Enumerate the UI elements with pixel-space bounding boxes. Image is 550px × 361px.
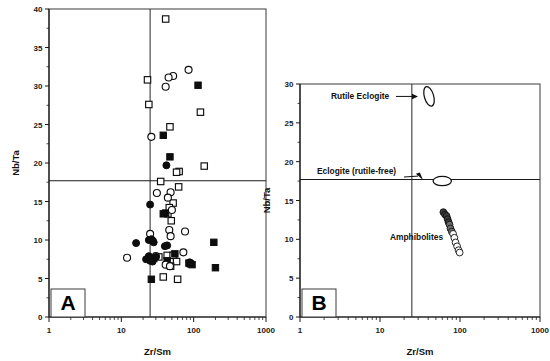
data-point-filled-circle [147, 201, 154, 208]
y-tick-label: 20 [285, 158, 294, 167]
data-point-filled-square [167, 154, 173, 160]
figure-container: 05101520253035401101001000Zr/SmNb/TaA051… [0, 0, 550, 361]
y-tick-label: 10 [34, 236, 43, 245]
data-point-open-square [157, 178, 163, 184]
data-point-amphibolite [456, 249, 463, 256]
data-point-open-square [160, 274, 166, 280]
x-tick-label: 1 [298, 326, 303, 335]
x-tick-label: 10 [117, 326, 126, 335]
y-axis-title-A: Nb/Ta [10, 149, 21, 175]
data-point-open-square [146, 101, 152, 107]
data-point-open-circle [165, 74, 172, 81]
data-point-open-square [173, 169, 179, 175]
panel-letter-B: B [311, 291, 326, 314]
y-tick-label: 40 [34, 5, 43, 14]
data-point-open-square [168, 218, 174, 224]
x-tick-label: 100 [187, 326, 201, 335]
y-axis-title-B: Nb/Ta [261, 187, 272, 213]
data-point-open-circle [164, 194, 171, 201]
data-point-filled-circle [133, 240, 140, 247]
y-tick-label: 5 [289, 274, 294, 283]
y-tick-label: 30 [34, 82, 43, 91]
panel-A: 05101520253035401101001000Zr/SmNb/TaA [10, 5, 275, 357]
y-tick-label: 0 [289, 313, 294, 322]
y-tick-label: 25 [285, 119, 294, 128]
data-point-open-square [174, 276, 180, 282]
data-point-open-circle [153, 190, 160, 197]
data-point-open-square [167, 124, 173, 130]
x-axis-title-B: Zr/Sm [407, 346, 434, 357]
data-point-open-square [175, 184, 181, 190]
panel-letter-A: A [60, 291, 75, 314]
data-point-open-circle [148, 133, 155, 140]
plot-frame-B [300, 84, 540, 317]
y-tick-label: 15 [34, 198, 43, 207]
data-point-filled-square [148, 276, 154, 282]
amphibolites-label: Amphibolites [390, 232, 443, 242]
data-point-open-circle [166, 263, 173, 270]
y-tick-label: 25 [34, 121, 43, 130]
data-point-open-circle [167, 233, 174, 240]
data-point-filled-square [195, 82, 201, 88]
y-tick-label: 5 [38, 275, 43, 284]
data-point-filled-square [160, 211, 166, 217]
data-point-filled-circle [186, 259, 193, 266]
data-point-filled-square [160, 132, 166, 138]
data-point-open-circle [162, 83, 169, 90]
y-tick-label: 20 [34, 159, 43, 168]
data-point-filled-circle [163, 162, 170, 169]
x-tick-label: 1 [47, 326, 52, 335]
data-point-open-circle [180, 249, 187, 256]
x-tick-label: 1000 [531, 326, 549, 335]
y-tick-label: 10 [285, 235, 294, 244]
data-point-filled-circle [161, 243, 168, 250]
data-point-filled-square [172, 251, 178, 257]
x-tick-label: 1000 [257, 326, 275, 335]
y-tick-label: 15 [285, 197, 294, 206]
data-point-open-circle [185, 66, 192, 73]
data-point-filled-circle [152, 253, 159, 260]
data-point-open-square [197, 109, 203, 115]
data-point-filled-circle [150, 239, 157, 246]
plot-frame-A [49, 9, 266, 317]
data-point-open-square [144, 77, 150, 83]
data-point-open-square [162, 16, 168, 22]
data-point-open-square [201, 163, 207, 169]
y-tick-label: 0 [38, 313, 43, 322]
y-tick-label: 30 [285, 80, 294, 89]
eclogite-rutile-free-label: Eclogite (rutile-free) [317, 166, 396, 176]
data-point-filled-square [211, 239, 217, 245]
data-point-open-circle [124, 254, 131, 261]
x-tick-label: 100 [453, 326, 467, 335]
panel-B: 0510152025301101001000Zr/SmNb/TaBRutile … [261, 80, 549, 357]
data-point-filled-circle [145, 253, 152, 260]
x-axis-title-A: Zr/Sm [144, 346, 171, 357]
y-tick-label: 35 [34, 44, 43, 53]
data-point-open-circle [182, 228, 189, 235]
x-tick-label: 10 [376, 326, 385, 335]
data-point-filled-square [212, 265, 218, 271]
rutile-eclogite-label: Rutile Eclogite [331, 91, 390, 101]
figure-svg: 05101520253035401101001000Zr/SmNb/TaA051… [0, 0, 550, 361]
data-point-open-circle [168, 206, 175, 213]
field-ellipse-eclogite-rutile-free [433, 176, 451, 185]
